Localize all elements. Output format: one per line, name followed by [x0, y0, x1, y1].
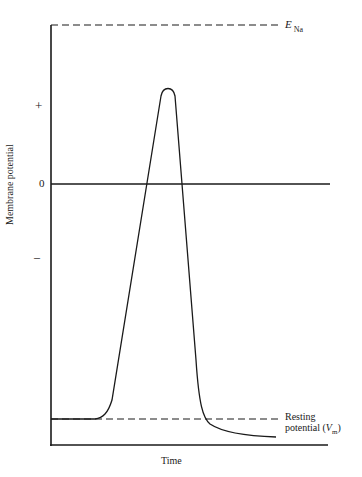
- resting-label-pre: potential (: [285, 422, 326, 433]
- resting-label-line1: Resting: [285, 411, 341, 422]
- e-na-sub: Na: [294, 25, 303, 34]
- resting-label-sub: m: [332, 428, 337, 436]
- y-tick-zero: 0: [39, 178, 45, 189]
- y-tick-minus: –: [34, 252, 40, 263]
- resting-label-line2: potential (Vm): [285, 422, 341, 435]
- action-potential-curve: [51, 89, 276, 438]
- action-potential-diagram: [0, 0, 362, 477]
- resting-label-post: ): [337, 422, 340, 433]
- y-axis-label: Membrane potential: [4, 105, 15, 225]
- e-na-main: E: [285, 18, 292, 30]
- y-tick-plus: +: [35, 100, 42, 111]
- x-axis-label: Time: [161, 455, 182, 466]
- resting-potential-label: Resting potential (Vm): [285, 411, 341, 435]
- e-na-label: ENa: [285, 19, 301, 31]
